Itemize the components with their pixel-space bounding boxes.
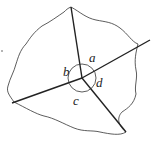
angle-label-d: d	[96, 75, 103, 90]
angle-label-b: b	[63, 64, 70, 79]
ray-left	[12, 78, 82, 103]
angle-label-a: a	[89, 50, 96, 65]
angle-diagram: a b c d	[0, 0, 153, 147]
ray-down	[82, 78, 126, 132]
angle-label-c: c	[73, 93, 79, 108]
region-boundary	[7, 7, 138, 134]
stray-dot	[1, 50, 3, 52]
